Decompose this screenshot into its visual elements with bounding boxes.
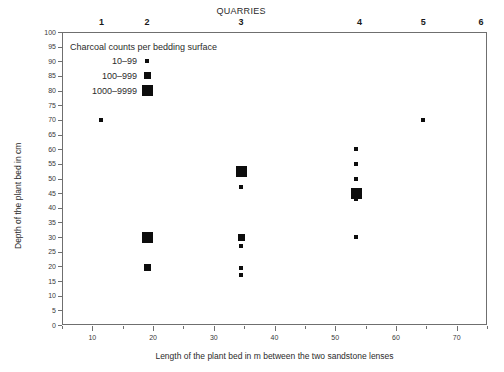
x-tick-mark	[92, 326, 93, 331]
x-minor-tick-mark	[487, 326, 488, 329]
y-tick-label: 25	[24, 248, 56, 255]
y-tick-label: 70	[24, 116, 56, 123]
y-tick-mark	[58, 135, 62, 136]
data-point-marker	[354, 197, 358, 201]
y-tick-mark	[58, 164, 62, 165]
data-point-marker	[239, 266, 243, 270]
x-minor-tick-mark	[244, 326, 245, 329]
x-tick-mark	[396, 326, 397, 331]
y-tick-mark	[58, 120, 62, 121]
data-point-marker	[236, 166, 247, 177]
x-tick-mark	[153, 326, 154, 331]
x-tick-label: 10	[72, 334, 112, 341]
y-tick-label: 95	[24, 43, 56, 50]
y-tick-mark	[58, 32, 62, 33]
x-tick-label: 40	[255, 334, 295, 341]
y-tick-label: 60	[24, 146, 56, 153]
data-point-marker	[239, 244, 243, 248]
legend-label: 1000–9999	[37, 87, 137, 96]
data-point-marker	[99, 118, 103, 122]
x-minor-tick-mark	[305, 326, 306, 329]
y-tick-mark	[58, 281, 62, 282]
y-tick-mark	[58, 296, 62, 297]
x-tick-mark	[457, 326, 458, 331]
y-tick-mark	[58, 208, 62, 209]
legend-label: 10–99	[37, 57, 137, 66]
chart-figure: QUARRIES 123456 051015202530354045505560…	[0, 0, 504, 372]
x-axis-title: Length of the plant bed in m between the…	[95, 352, 455, 361]
y-tick-label: 75	[24, 102, 56, 109]
quarry-tick-4: 4	[340, 18, 380, 27]
data-point-marker	[421, 118, 425, 122]
y-tick-mark	[58, 266, 62, 267]
y-tick-mark	[58, 179, 62, 180]
y-tick-mark	[58, 252, 62, 253]
y-tick-label: 40	[24, 204, 56, 211]
x-tick-label: 60	[376, 334, 416, 341]
y-tick-mark	[58, 47, 62, 48]
y-tick-label: 5	[24, 307, 56, 314]
x-tick-label: 20	[133, 334, 173, 341]
x-tick-label: 70	[437, 334, 477, 341]
data-point-marker	[354, 147, 358, 151]
y-axis-title: Depth of the plant bed in cm	[14, 142, 23, 248]
legend-label: 100–999	[37, 72, 137, 81]
x-minor-tick-mark	[183, 326, 184, 329]
y-tick-mark	[58, 193, 62, 194]
y-tick-mark	[58, 105, 62, 106]
legend-title: Charcoal counts per bedding surface	[70, 43, 217, 52]
quarry-tick-3: 3	[221, 18, 261, 27]
y-tick-label: 55	[24, 160, 56, 167]
x-minor-tick-mark	[62, 326, 63, 329]
data-point-marker	[142, 232, 153, 243]
legend-swatch	[144, 72, 151, 79]
y-tick-label: 35	[24, 219, 56, 226]
data-point-marker	[354, 177, 358, 181]
y-tick-mark	[58, 149, 62, 150]
y-tick-mark	[58, 222, 62, 223]
y-tick-label: 0	[24, 322, 56, 329]
quarry-tick-6: 6	[461, 18, 501, 27]
x-minor-tick-mark	[426, 326, 427, 329]
y-tick-label: 10	[24, 292, 56, 299]
y-tick-label: 45	[24, 190, 56, 197]
y-tick-label: 50	[24, 175, 56, 182]
data-point-marker	[144, 264, 151, 271]
data-point-marker	[354, 235, 358, 239]
quarry-tick-2: 2	[127, 18, 167, 27]
y-tick-label: 30	[24, 234, 56, 241]
x-tick-label: 30	[194, 334, 234, 341]
y-tick-label: 20	[24, 263, 56, 270]
secondary-axis-title: QUARRIES	[181, 6, 301, 16]
y-tick-mark	[58, 237, 62, 238]
x-tick-label: 50	[315, 334, 355, 341]
legend-swatch	[142, 85, 153, 96]
y-tick-label: 15	[24, 278, 56, 285]
x-minor-tick-mark	[366, 326, 367, 329]
y-tick-mark	[58, 310, 62, 311]
legend-swatch	[145, 59, 149, 63]
x-tick-mark	[275, 326, 276, 331]
x-tick-mark	[335, 326, 336, 331]
data-point-marker	[354, 162, 358, 166]
x-minor-tick-mark	[123, 326, 124, 329]
data-point-marker	[238, 234, 245, 241]
y-tick-label: 100	[24, 29, 56, 36]
quarry-tick-1: 1	[81, 18, 121, 27]
quarry-tick-5: 5	[403, 18, 443, 27]
data-point-marker	[239, 273, 243, 277]
y-tick-label: 65	[24, 131, 56, 138]
data-point-marker	[239, 185, 243, 189]
x-tick-mark	[214, 326, 215, 331]
